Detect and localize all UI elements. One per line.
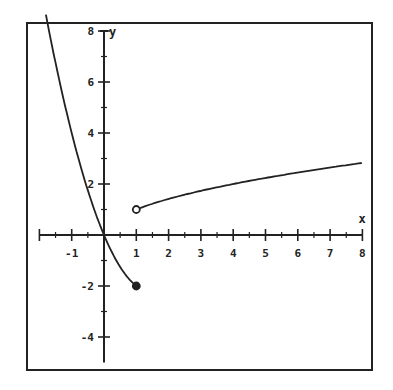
y-tick-label: 6 [87, 76, 94, 89]
x-tick-label: 1 [133, 247, 140, 260]
y-tick-label: -4 [81, 331, 95, 344]
plot-frame [27, 23, 372, 370]
x-axis-label: x [358, 212, 365, 226]
x-tick-label: 2 [165, 247, 172, 260]
x-tick-label: 3 [198, 247, 205, 260]
y-axis-label: y [109, 25, 116, 39]
open-endpoint-circle [133, 206, 140, 213]
series-right-curve [139, 163, 362, 209]
ticks: -1123456788642-2-4 [39, 25, 365, 344]
piecewise-function-graph: xy -1123456788642-2-4 [0, 0, 393, 390]
x-tick-label: -1 [65, 247, 79, 260]
y-tick-label: 4 [87, 127, 94, 140]
x-tick-label: 7 [327, 247, 334, 260]
x-tick-label: 6 [294, 247, 301, 260]
series-left-curve [46, 15, 136, 286]
x-tick-label: 5 [262, 247, 269, 260]
y-tick-label: -2 [81, 280, 94, 293]
x-tick-label: 8 [359, 247, 366, 260]
x-tick-label: 4 [230, 247, 237, 260]
closed-endpoint-dot [133, 283, 140, 290]
y-tick-label: 8 [87, 25, 94, 38]
